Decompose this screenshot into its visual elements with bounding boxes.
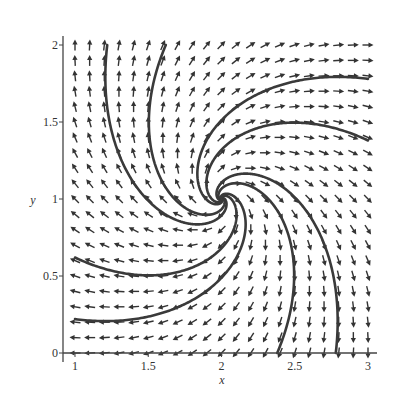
field-arrow <box>143 258 154 263</box>
field-arrow <box>114 243 124 248</box>
field-arrow <box>277 301 282 312</box>
field-arrow <box>246 104 256 109</box>
field-arrow <box>304 166 314 171</box>
field-arrow <box>349 195 357 203</box>
field-arrow <box>278 240 283 251</box>
field-arrow <box>172 274 183 279</box>
field-arrow <box>366 271 371 281</box>
field-arrow <box>131 117 136 128</box>
field-arrow <box>336 225 342 234</box>
field-arrow <box>263 317 268 327</box>
field-arrow <box>348 58 359 63</box>
y-tick-label: 0 <box>52 346 58 360</box>
field-arrow <box>293 225 298 235</box>
field-arrow <box>363 89 374 94</box>
field-arrow <box>290 42 300 47</box>
field-arrow <box>260 150 271 155</box>
field-arrow <box>187 274 197 279</box>
field-arrow <box>128 243 138 248</box>
field-arrow <box>202 304 211 311</box>
field-arrow <box>320 180 329 187</box>
field-arrow <box>204 87 211 96</box>
field-arrow <box>363 104 374 109</box>
phase-portrait-chart: 11.522.53 00.511.52 x y <box>0 0 396 407</box>
field-arrow <box>263 240 268 251</box>
field-arrow <box>218 318 226 326</box>
field-arrow <box>231 150 241 155</box>
field-arrow <box>113 335 124 340</box>
field-arrow <box>275 166 285 171</box>
field-arrow <box>172 243 183 248</box>
field-arrow <box>351 286 356 297</box>
field-arrow <box>146 163 151 173</box>
field-arrow <box>247 195 255 203</box>
field-arrow <box>131 86 136 97</box>
field-arrow <box>275 89 286 94</box>
field-arrow <box>248 286 253 296</box>
field-arrow <box>366 301 371 312</box>
field-arrow <box>129 227 139 232</box>
field-arrow <box>70 273 80 278</box>
field-arrow <box>319 42 330 47</box>
field-arrow <box>175 163 180 174</box>
field-arrow <box>187 227 198 232</box>
field-arrow <box>319 104 330 109</box>
field-arrow <box>143 304 154 309</box>
field-arrow <box>218 226 226 234</box>
field-arrow <box>128 335 139 340</box>
field-arrow <box>289 89 300 94</box>
field-arrow <box>218 303 226 311</box>
field-arrow <box>204 148 209 158</box>
field-arrow <box>365 240 370 250</box>
field-arrow <box>116 117 121 128</box>
field-arrow <box>175 40 180 50</box>
field-arrow <box>350 225 356 234</box>
field-arrow <box>204 117 210 126</box>
field-arrow <box>99 243 109 248</box>
field-arrow <box>334 180 343 187</box>
field-arrow <box>160 132 165 143</box>
field-arrow <box>173 335 183 340</box>
field-arrow <box>72 164 78 173</box>
field-arrow <box>175 179 180 189</box>
field-arrow <box>304 135 315 140</box>
field-arrow <box>158 320 168 325</box>
field-arrow <box>261 58 271 63</box>
field-arrow <box>172 227 183 232</box>
field-arrow <box>246 73 255 79</box>
field-arrow <box>158 289 169 294</box>
field-arrow <box>72 148 77 158</box>
field-arrow <box>84 273 95 278</box>
field-arrow <box>275 135 286 140</box>
field-arrow <box>333 42 344 47</box>
field-arrow <box>319 135 330 140</box>
field-arrow <box>113 304 124 309</box>
field-arrow <box>363 42 374 47</box>
field-arrow <box>175 71 180 81</box>
field-arrow <box>113 289 124 294</box>
field-arrow <box>131 55 136 66</box>
field-arrow <box>72 179 79 188</box>
field-arrow <box>365 225 371 234</box>
field-arrow <box>292 332 297 343</box>
field-arrow <box>87 164 93 173</box>
field-arrow <box>72 55 77 66</box>
field-arrow <box>335 210 342 219</box>
field-arrow <box>190 163 195 174</box>
field-arrow <box>144 211 153 217</box>
field-arrow <box>233 287 239 296</box>
field-arrow <box>304 58 315 63</box>
field-arrow <box>159 195 167 203</box>
field-arrow <box>248 255 253 265</box>
field-arrow <box>319 58 330 63</box>
field-arrow <box>84 304 95 309</box>
field-arrow <box>72 40 77 51</box>
y-tick-label: 0.5 <box>43 269 58 283</box>
field-arrow <box>363 150 373 155</box>
field-arrow <box>233 318 240 327</box>
field-arrow <box>102 132 107 142</box>
field-arrow <box>102 117 107 128</box>
field-arrow <box>158 335 168 340</box>
x-tick-label: 1 <box>72 359 78 373</box>
x-axis-label: x <box>218 373 225 387</box>
